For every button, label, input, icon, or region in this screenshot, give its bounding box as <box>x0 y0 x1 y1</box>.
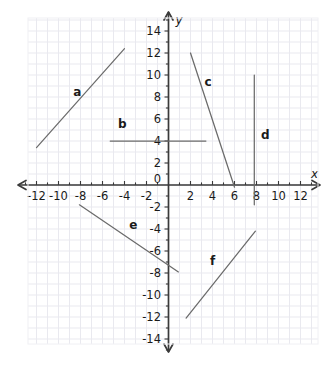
origin-label: 0 <box>154 172 161 186</box>
line-label-f: f <box>210 254 216 268</box>
graph-screenshot: -12-10-8-6-4-2246810121412108642-2-4-6-8… <box>0 0 335 370</box>
coordinate-plane: -12-10-8-6-4-2246810121412108642-2-4-6-8… <box>0 0 335 370</box>
y-tick-label: -4 <box>150 222 161 236</box>
x-tick-label: -4 <box>119 189 130 203</box>
x-tick-label: 4 <box>209 189 216 203</box>
line-label-c: c <box>205 75 212 89</box>
x-tick-label: -8 <box>75 189 86 203</box>
x-tick-label: -10 <box>49 189 68 203</box>
y-tick-label: 12 <box>146 46 161 60</box>
y-tick-label: 14 <box>146 24 161 38</box>
x-tick-label: -6 <box>97 189 108 203</box>
line-label-e: e <box>129 218 137 232</box>
line-label-b: b <box>118 117 127 131</box>
x-tick-label: -12 <box>27 189 46 203</box>
x-tick-label: 12 <box>293 189 308 203</box>
y-axis-label: y <box>175 13 184 27</box>
x-tick-label: 2 <box>187 189 194 203</box>
line-label-a: a <box>73 85 81 99</box>
x-tick-label: 6 <box>231 189 238 203</box>
x-tick-label: 10 <box>271 189 286 203</box>
line-label-d: d <box>261 128 270 142</box>
y-tick-label: 8 <box>154 90 161 104</box>
y-tick-label: -2 <box>150 200 161 214</box>
y-tick-label: 10 <box>146 68 161 82</box>
y-tick-label: -10 <box>142 288 161 302</box>
y-tick-label: -8 <box>150 266 161 280</box>
y-tick-label: 2 <box>154 156 161 170</box>
y-tick-label: 6 <box>154 112 161 126</box>
y-tick-label: -12 <box>142 310 161 324</box>
